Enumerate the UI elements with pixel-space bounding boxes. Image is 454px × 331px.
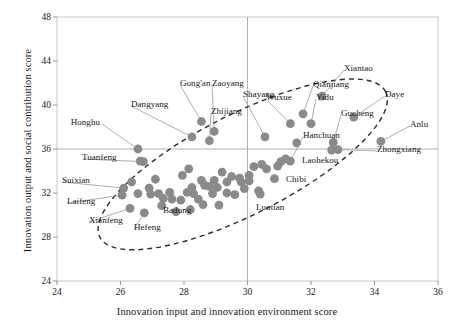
data-point[interactable] <box>222 189 231 198</box>
point-label-yidu: Yidu <box>316 92 334 102</box>
data-point-yidu[interactable] <box>307 119 316 128</box>
label-leader-line <box>243 96 265 137</box>
data-point-xianfeng[interactable] <box>126 204 135 213</box>
data-point-shayang[interactable] <box>261 133 270 142</box>
data-point[interactable] <box>184 164 193 173</box>
point-label-chibi: Chibi <box>286 174 306 184</box>
label-leader-line <box>303 86 313 114</box>
point-label-suixian: Suixian <box>62 175 90 185</box>
data-point[interactable] <box>218 168 227 177</box>
data-point[interactable] <box>245 177 254 186</box>
data-point[interactable] <box>208 189 217 198</box>
data-point[interactable] <box>176 196 185 205</box>
point-label-hefeng: Hefeng <box>134 222 161 232</box>
point-label-zhijiang: Zhijiang <box>211 106 242 116</box>
data-point[interactable] <box>249 162 258 171</box>
label-leader-line <box>266 99 290 124</box>
data-point[interactable] <box>134 189 143 198</box>
data-point-luotian[interactable] <box>256 190 265 199</box>
label-leader-line <box>381 126 410 141</box>
data-point[interactable] <box>151 175 160 184</box>
point-label-gong-an: Gong'an <box>180 78 210 88</box>
y-tick-label-40: 40 <box>25 100 51 110</box>
point-label-xianfeng: Xianfeng <box>89 215 123 225</box>
point-label-laohekou: Laohekou <box>302 155 338 165</box>
data-point[interactable] <box>165 188 174 197</box>
label-leader-line <box>102 124 138 149</box>
data-point[interactable] <box>178 171 187 180</box>
data-point[interactable] <box>146 190 155 199</box>
y-tick-label-28: 28 <box>25 232 51 242</box>
point-label-gucheng: Gucheng <box>341 108 374 118</box>
data-point-honghu[interactable] <box>134 145 143 154</box>
x-tick-label-34: 34 <box>370 287 380 297</box>
data-point-qianjiang[interactable] <box>299 109 308 118</box>
label-leader-line <box>131 106 192 137</box>
point-label-anlu: Anlu <box>410 119 428 129</box>
data-point-zhijiang[interactable] <box>205 136 214 145</box>
y-tick-label-36: 36 <box>25 144 51 154</box>
data-point[interactable] <box>240 184 249 193</box>
point-label-qianjiang: Qianjiang <box>313 79 349 89</box>
data-point-wuxue[interactable] <box>286 119 295 128</box>
point-label-tuanfeng: Tuanfeng <box>82 152 117 162</box>
point-label-honghu: Honghu <box>0 117 100 127</box>
data-point[interactable] <box>262 164 271 173</box>
data-point-dangyang[interactable] <box>188 133 197 142</box>
point-label-hanchuan: Hanchuan <box>303 130 340 140</box>
point-label-dangyang: Dangyang <box>131 99 168 109</box>
x-tick-label-24: 24 <box>52 287 62 297</box>
label-leader-line <box>180 85 201 122</box>
data-point[interactable] <box>199 200 208 209</box>
point-label-daye: Daye <box>385 89 404 99</box>
point-label-luotian: Luotian <box>256 202 284 212</box>
data-point-laifeng[interactable] <box>118 191 127 200</box>
plot-canvas <box>0 0 454 331</box>
x-tick-label-30: 30 <box>243 287 253 297</box>
point-label-zaoyang: Zaoyang <box>212 78 244 88</box>
point-label-wuxue: Wuxue <box>266 92 292 102</box>
data-point[interactable] <box>215 201 224 210</box>
y-tick-label-32: 32 <box>25 188 51 198</box>
data-point-gong-an[interactable] <box>197 117 206 126</box>
data-point-zaoyang[interactable] <box>210 127 219 136</box>
label-leader-line <box>338 150 377 151</box>
x-tick-label-32: 32 <box>306 287 316 297</box>
y-tick-label-44: 44 <box>25 56 51 66</box>
point-label-xiantao: Xiantao <box>344 63 373 73</box>
point-label-zhongxiang: Zhongxiang <box>377 144 421 154</box>
y-tick-label-48: 48 <box>25 12 51 22</box>
data-point-chibi[interactable] <box>270 174 279 183</box>
x-axis-title: Innovation input and innovation environm… <box>0 306 454 317</box>
data-point-tuanfeng[interactable] <box>139 157 148 166</box>
point-label-laifeng: Laifeng <box>67 196 95 206</box>
x-tick-label-28: 28 <box>179 287 189 297</box>
x-tick-label-26: 26 <box>116 287 126 297</box>
y-tick-label-24: 24 <box>25 276 51 286</box>
data-point-hefeng[interactable] <box>140 208 149 217</box>
data-point-laohekou[interactable] <box>281 155 290 164</box>
point-label-badong: Badong <box>163 205 191 215</box>
data-point[interactable] <box>227 172 236 181</box>
data-point-zhongxiang[interactable] <box>334 145 343 154</box>
data-point[interactable] <box>127 178 136 187</box>
data-point[interactable] <box>230 190 239 199</box>
scatter-chart: Innovation input and innovation environm… <box>0 0 454 331</box>
x-tick-label-36: 36 <box>433 287 443 297</box>
